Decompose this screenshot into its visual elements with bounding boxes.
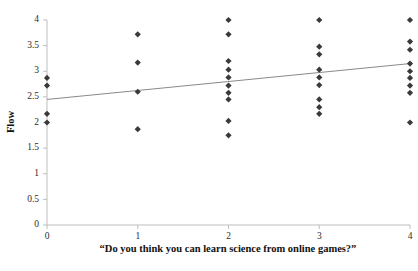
data-point: [135, 59, 141, 65]
y-tick-group: 00.511.522.533.54: [27, 14, 47, 229]
y-tick-label: 1.5: [27, 142, 39, 152]
y-axis: 00.511.522.533.54: [27, 14, 47, 229]
data-point: [407, 90, 413, 96]
data-point: [316, 17, 322, 23]
data-point: [407, 47, 413, 53]
data-point: [225, 17, 231, 23]
data-point: [316, 82, 322, 88]
scatter-plot-figure: 00.511.522.533.54 01234 “Do you think yo…: [0, 0, 418, 271]
y-tick-label: 2.5: [27, 91, 39, 101]
data-point: [135, 89, 141, 95]
data-point: [407, 119, 413, 125]
y-tick-label: 0.5: [27, 194, 39, 204]
data-point: [135, 31, 141, 37]
x-axis: 01234: [45, 225, 413, 241]
data-point: [225, 74, 231, 80]
y-tick-label: 0: [34, 219, 39, 229]
data-point: [225, 58, 231, 64]
y-tick-label: 4: [34, 14, 39, 24]
x-tick-label: 3: [317, 231, 322, 241]
x-tick-label: 2: [226, 231, 231, 241]
y-axis-title: Flow: [5, 111, 16, 134]
data-point: [316, 111, 322, 117]
x-tick-label: 4: [408, 231, 413, 241]
data-point: [316, 44, 322, 50]
y-tick-label: 3.5: [27, 40, 39, 50]
plot-canvas: 00.511.522.533.54 01234 “Do you think yo…: [0, 0, 418, 271]
data-point: [225, 31, 231, 37]
x-tick-label: 0: [45, 231, 50, 241]
data-point: [44, 111, 50, 117]
x-axis-title: “Do you think you can learn science from…: [100, 243, 357, 254]
data-point: [225, 90, 231, 96]
data-point: [316, 104, 322, 110]
x-tick-label: 1: [135, 231, 140, 241]
data-point: [135, 126, 141, 132]
data-point: [44, 75, 50, 81]
data-point: [407, 83, 413, 89]
y-tick-label: 2: [34, 117, 39, 127]
data-point: [407, 60, 413, 66]
data-point: [44, 119, 50, 125]
y-tick-label: 3: [34, 65, 39, 75]
data-point: [316, 74, 322, 80]
data-point: [407, 38, 413, 44]
data-point: [407, 68, 413, 74]
data-point: [225, 132, 231, 138]
data-point: [225, 83, 231, 89]
data-point-group: [44, 17, 413, 139]
data-point: [407, 75, 413, 81]
data-point: [44, 83, 50, 89]
data-point: [316, 51, 322, 57]
data-point: [225, 96, 231, 102]
data-point: [407, 17, 413, 23]
x-tick-group: 01234: [45, 225, 413, 241]
data-point: [316, 96, 322, 102]
data-point: [225, 67, 231, 73]
data-point: [225, 118, 231, 124]
y-tick-label: 1: [34, 168, 39, 178]
